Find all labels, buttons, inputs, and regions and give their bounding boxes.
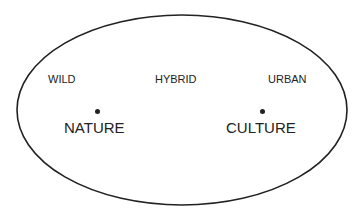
label-hybrid: HYBRID [155,74,197,85]
label-culture: CULTURE [226,120,296,135]
label-urban: URBAN [268,74,307,85]
culture-point [260,109,265,114]
label-nature: NATURE [64,120,125,135]
nature-point [95,109,100,114]
enclosing-ellipse [0,0,362,213]
label-wild: WILD [48,74,76,85]
